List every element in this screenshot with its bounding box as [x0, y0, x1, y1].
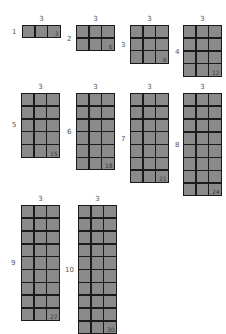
array-cell	[79, 219, 90, 230]
array-cell	[47, 270, 58, 281]
product-total-label: 21	[159, 175, 167, 182]
array-cell	[22, 270, 33, 281]
array-cell	[209, 39, 220, 50]
array-cell	[184, 171, 195, 182]
array-cell	[104, 296, 115, 307]
array-cell	[90, 94, 101, 105]
product-total-label: 15	[50, 150, 58, 157]
array-cell	[197, 133, 208, 144]
array-cell	[104, 232, 115, 243]
array-cell	[144, 39, 155, 50]
array-cell	[156, 120, 167, 131]
array-cell	[156, 158, 167, 169]
array-cell	[79, 245, 90, 256]
array-cell	[77, 132, 88, 143]
array-cell	[35, 107, 46, 118]
array-cell	[36, 26, 47, 37]
array-cell	[209, 26, 220, 37]
array-cell: 12	[209, 64, 220, 75]
array-cell: 9	[156, 51, 167, 62]
array-cell	[144, 171, 155, 182]
array-cell	[90, 145, 101, 156]
array-cell	[47, 296, 58, 307]
array-cell	[90, 120, 101, 131]
array-cell	[90, 107, 101, 118]
array-cell	[92, 296, 103, 307]
array-grid-1x3: 3	[22, 25, 61, 38]
array-cell	[79, 257, 90, 268]
array-grid-2x3: 6	[76, 25, 115, 51]
array-grid-6x3: 18	[76, 93, 115, 170]
array-cell	[47, 283, 58, 294]
array-grid-9x3: 27	[21, 205, 60, 321]
array-grid-5x3: 15	[21, 93, 60, 158]
array-cell	[92, 232, 103, 243]
array-cell	[35, 245, 46, 256]
array-cell	[209, 158, 220, 169]
row-count-label: 9	[11, 259, 15, 267]
array-cell	[47, 232, 58, 243]
array-cell	[79, 309, 90, 320]
array-cell	[22, 94, 33, 105]
array-cell	[22, 145, 33, 156]
array-cell	[156, 145, 167, 156]
column-count-label: 3	[93, 83, 97, 91]
array-cell	[77, 145, 88, 156]
product-total-label: 6	[109, 43, 113, 50]
array-cell	[144, 26, 155, 37]
array-cell	[209, 171, 220, 182]
array-cell	[197, 52, 208, 63]
array-cell	[102, 107, 113, 118]
column-count-label: 3	[200, 83, 204, 91]
array-cell	[35, 219, 46, 230]
column-count-label: 3	[38, 83, 42, 91]
array-cell	[35, 270, 46, 281]
array-cell	[184, 120, 195, 131]
array-cell	[35, 257, 46, 268]
row-count-label: 2	[67, 35, 71, 43]
column-count-label: 3	[147, 15, 151, 23]
column-count-label: 3	[93, 15, 97, 23]
array-cell	[197, 145, 208, 156]
array-cell	[23, 26, 34, 37]
array-cell	[197, 171, 208, 182]
array-cell	[77, 26, 88, 37]
array-cell	[22, 132, 33, 143]
array-cell: 21	[156, 171, 167, 182]
array-cell	[131, 26, 142, 37]
array-cell	[197, 64, 208, 75]
column-count-label: 3	[38, 195, 42, 203]
array-cell	[104, 206, 115, 217]
array-cell	[104, 283, 115, 294]
array-cell	[22, 296, 33, 307]
array-cell: 24	[209, 184, 220, 195]
array-cell	[144, 120, 155, 131]
array-grid-7x3: 21	[130, 93, 169, 183]
array-cell	[92, 322, 103, 333]
array-cell	[35, 120, 46, 131]
array-cell	[144, 51, 155, 62]
array-grid-10x3: 30	[78, 205, 117, 334]
array-cell	[102, 145, 113, 156]
array-cell	[184, 64, 195, 75]
array-cell	[131, 39, 142, 50]
array-cell: 3	[48, 26, 59, 37]
array-cell	[90, 158, 101, 169]
array-cell	[131, 94, 142, 105]
array-cell	[47, 107, 58, 118]
array-cell	[104, 219, 115, 230]
array-cell	[102, 132, 113, 143]
array-cell	[131, 51, 142, 62]
array-cell	[47, 94, 58, 105]
array-cell	[184, 133, 195, 144]
array-cell	[102, 26, 113, 37]
array-cell	[22, 257, 33, 268]
array-cell	[197, 158, 208, 169]
array-cell	[197, 107, 208, 118]
array-cell	[47, 245, 58, 256]
array-cell	[79, 232, 90, 243]
array-cell	[22, 120, 33, 131]
array-cell	[131, 107, 142, 118]
product-total-label: 9	[163, 56, 167, 63]
array-cell	[184, 39, 195, 50]
